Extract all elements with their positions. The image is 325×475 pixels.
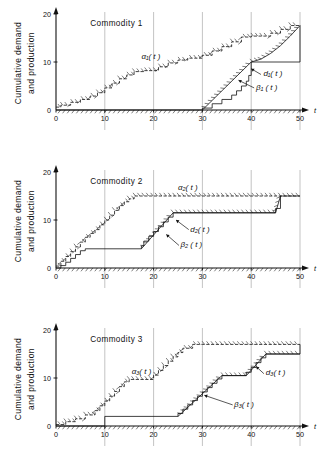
- hatch-tick: [136, 376, 138, 379]
- hatch-tick: [70, 249, 72, 252]
- hatch-tick: [261, 193, 263, 196]
- hatch-tick: [64, 419, 66, 422]
- chart-svg-3: 0102030405001020tCommodity 3α₃( t )d₃( t…: [48, 322, 310, 446]
- curve-label: α₁( t ): [141, 52, 160, 61]
- hatch-tick: [171, 354, 173, 357]
- hatch-tick: [190, 193, 192, 196]
- hatch-tick: [79, 416, 81, 419]
- hatch-tick: [247, 34, 249, 37]
- hatch-tick: [60, 102, 62, 105]
- x-tick-label: 10: [101, 114, 109, 123]
- x-tick-label: 20: [150, 430, 158, 439]
- x-tick-label: 20: [150, 272, 158, 281]
- hatch-tick: [291, 351, 293, 354]
- y-tick-label: 0: [47, 106, 51, 115]
- hatch-tick: [184, 345, 186, 348]
- curve-label: d₂( t ): [190, 225, 210, 234]
- hatch-tick: [230, 39, 232, 42]
- hatch-tick: [268, 210, 270, 213]
- plot-area-1: 0102030405001020tCommodity 1α₁( t )d₁( t…: [48, 6, 310, 130]
- x-tick-label: 30: [198, 430, 206, 439]
- y-axis-arrow: [54, 165, 59, 172]
- ticks: 0102030405001020: [43, 168, 304, 281]
- hatch-tick: [286, 351, 288, 354]
- curve-label: α₂( t ): [178, 183, 198, 192]
- hatch-tick: [283, 193, 285, 196]
- plot-area-3: 0102030405001020tCommodity 3α₃( t )d₃( t…: [48, 322, 310, 446]
- hatch-tick: [91, 93, 93, 96]
- series-staircase-demand: [56, 22, 300, 107]
- hatch-tick: [193, 210, 195, 213]
- hatch-tick: [195, 193, 197, 196]
- hatch-tick: [84, 412, 86, 415]
- leader-line: [204, 395, 232, 405]
- hatch-tick: [77, 242, 80, 244]
- hatch-tick: [180, 410, 184, 411]
- hatch-tick: [230, 193, 232, 196]
- x-tick-label: 40: [247, 114, 255, 123]
- panel-title: Commodity 1: [90, 19, 143, 28]
- hatch-tick: [164, 193, 166, 196]
- hatch-tick: [234, 372, 236, 375]
- hatch-tick: [140, 376, 142, 379]
- hatch-tick: [109, 393, 111, 396]
- hatch-tick: [58, 104, 60, 107]
- hatch-tick: [286, 341, 288, 344]
- hatch-tick: [146, 193, 148, 196]
- hatch-tick: [125, 379, 127, 382]
- hatch-tick: [259, 341, 261, 344]
- curve-label: β₃( t ): [233, 400, 254, 409]
- hatch-tick: [145, 376, 147, 379]
- hatch-tick: [237, 210, 239, 213]
- hatch-tick: [68, 419, 70, 422]
- x-axis-name: t: [314, 422, 317, 431]
- series-staircase-demand: [56, 193, 300, 266]
- y-tick-label: 20: [43, 168, 51, 177]
- hatch-tick: [268, 341, 270, 344]
- hatch-tick: [145, 68, 147, 71]
- hatch-tick: [279, 26, 281, 29]
- x-tick-label: 0: [54, 430, 58, 439]
- y-axis-label-3: Cumulative demand and production: [12, 314, 38, 444]
- panel-title: Commodity 2: [90, 177, 143, 186]
- hatch-tick: [233, 210, 235, 213]
- hatch-tick: [206, 210, 208, 213]
- hatch-tick: [290, 341, 292, 344]
- hatch-tick: [270, 30, 272, 33]
- y-tick-label: 0: [47, 264, 51, 273]
- hatch-tick: [264, 341, 266, 344]
- x-axis-arrow: [302, 108, 309, 113]
- hatch-tick: [235, 39, 237, 42]
- hatch-tick: [278, 193, 280, 196]
- series-production-envelope: [140, 196, 280, 249]
- hatch-tick: [228, 210, 230, 213]
- hatch-tick: [194, 55, 196, 58]
- hatch-tick: [203, 389, 207, 390]
- hatch-tick: [175, 210, 177, 213]
- series-line: [56, 196, 300, 266]
- hatch-tick: [219, 210, 221, 213]
- x-axis-name: t: [314, 264, 317, 273]
- hatch-tick: [82, 419, 85, 421]
- hatch-tick: [137, 193, 139, 196]
- hatch-tick: [255, 210, 257, 213]
- x-tick-label: 30: [198, 272, 206, 281]
- hatch-tick: [277, 341, 279, 344]
- y-tick-label: 10: [43, 374, 51, 383]
- chart-svg-1: 0102030405001020tCommodity 1α₁( t )d₁( t…: [48, 6, 310, 130]
- hatch-tick: [159, 193, 161, 196]
- hatch-tick: [215, 341, 217, 344]
- hatch-tick: [213, 380, 217, 381]
- hatch-tick: [226, 44, 228, 47]
- hatch-tick: [273, 351, 275, 354]
- hatch-tick: [237, 341, 239, 344]
- hatch-tick: [246, 210, 248, 213]
- hatch-tick: [293, 22, 295, 25]
- hatch-tick: [262, 55, 266, 56]
- curve-label: d₁( t ): [263, 69, 282, 78]
- hatch-tick: [189, 55, 191, 58]
- hatch-tick: [274, 193, 276, 196]
- hatch-tick: [265, 193, 267, 196]
- hatch-tick: [225, 372, 227, 375]
- x-tick-label: 50: [296, 430, 304, 439]
